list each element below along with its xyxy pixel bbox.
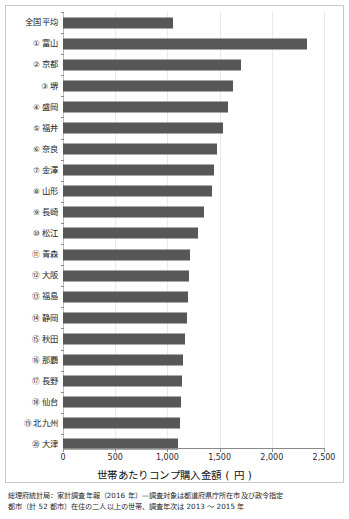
x-tick-label: 500 [108,453,123,462]
x-tick-label: 1,500 [208,453,231,462]
bar[interactable] [63,207,204,218]
bar-track [63,244,343,265]
rank-badge: ⑬ [32,293,40,301]
rank-badge: ④ [33,104,40,112]
bar[interactable] [63,312,187,323]
bar-track [63,350,343,371]
x-tick-mark [167,448,168,452]
bar-row: ⑬福島 [6,286,343,307]
bar-row: ⑭静岡 [6,307,343,328]
bar-label-秋田: ⑮秋田 [6,335,58,344]
category-name: 富山 [42,38,58,48]
bar-track [63,307,343,328]
bar[interactable] [63,165,214,176]
category-name: 大阪 [42,270,58,280]
bar-row: ⑲北九州 [6,413,343,434]
bar-row: ⑦金澤 [6,160,343,181]
bar[interactable] [63,144,217,155]
bar-track [63,181,343,202]
x-tick-label: 0 [60,453,65,462]
bar-track [63,328,343,349]
bar-track [63,265,343,286]
bar-row: ⑰長野 [6,371,343,392]
bar-track [63,223,343,244]
rank-badge: ⑤ [33,125,40,133]
bar[interactable] [63,270,189,281]
category-name: 京都 [42,59,58,69]
bar[interactable] [63,376,182,387]
rank-badge: ⑧ [33,188,40,196]
x-tick-mark [63,448,64,452]
bar[interactable] [63,249,190,260]
bar-label-京都: ②京都 [6,60,58,69]
footnote: 総理府統計局：家計調査年報（2016 年）—調査対象は都道府県庁所在市及び政令指… [8,490,344,512]
bar-row: ⑯那覇 [6,350,343,371]
bar-label-長崎: ⑨長崎 [6,208,58,217]
bar-label-堺: ③堺 [6,82,58,91]
bar[interactable] [63,397,181,408]
rank-badge: ⑪ [32,251,40,259]
x-tick-mark [272,448,273,452]
bar-label-金澤: ⑦金澤 [6,166,58,175]
bar[interactable] [63,333,185,344]
bar-track [63,33,343,54]
x-tick-mark [324,448,325,452]
bar[interactable] [63,17,173,28]
bar[interactable] [63,59,241,70]
category-name: 松江 [42,228,58,238]
bar-label-奈良: ⑥奈良 [6,145,58,154]
category-name: 堺 [50,81,58,91]
rank-badge: ⑩ [33,230,40,238]
bar-track [63,160,343,181]
bar-label-福井: ⑤福井 [6,124,58,133]
bar[interactable] [63,38,307,49]
bar-track [63,392,343,413]
chart-frame: 全国平均①富山②京都③堺④盛岡⑤福井⑥奈良⑦金澤⑧山形⑨長崎⑩松江⑪青森⑫大阪⑬… [5,5,344,483]
rank-badge: ⑨ [33,209,40,217]
x-tick-label: 1,000 [156,453,179,462]
category-name: 仙台 [42,397,58,407]
plot-area: 全国平均①富山②京都③堺④盛岡⑤福井⑥奈良⑦金澤⑧山形⑨長崎⑩松江⑪青森⑫大阪⑬… [6,6,343,482]
bar[interactable] [63,418,180,429]
bar[interactable] [63,123,223,134]
bar-label-全国平均: 全国平均 [6,18,58,26]
bar-row: ⑫大阪 [6,265,343,286]
x-tick-mark [115,448,116,452]
bar[interactable] [63,228,198,239]
bar-row: ⑱仙台 [6,392,343,413]
bar-label-那覇: ⑯那覇 [6,356,58,365]
bar-label-長野: ⑰長野 [6,377,58,386]
x-axis-line [63,448,324,449]
bar[interactable] [63,80,233,91]
rank-badge: ⑯ [32,357,40,365]
footnote-line-1: 総理府統計局：家計調査年報（2016 年）—調査対象は都道府県庁所在市及び政令指… [8,490,344,501]
rank-badge: ⑰ [32,378,40,386]
bar-row: ⑥奈良 [6,139,343,160]
bar-track [63,202,343,223]
category-name: 大津 [42,439,58,449]
category-name: 静岡 [42,313,58,323]
category-name: 北九州 [33,418,58,428]
bar-track [63,12,343,33]
bar-track [63,75,343,96]
bar[interactable] [63,291,188,302]
category-name: 青森 [42,249,58,259]
bar-row: ①富山 [6,33,343,54]
bar-label-大津: ⑳大津 [6,440,58,449]
rank-badge: ① [33,40,40,48]
bar-label-仙台: ⑱仙台 [6,398,58,407]
bar-label-北九州: ⑲北九州 [6,419,58,428]
bar-row: ⑪青森 [6,244,343,265]
category-name: 奈良 [42,144,58,154]
bar-track [63,54,343,75]
x-axis-title: 世帯あたりコンプ購入金額 ( 円 ) [6,467,343,482]
bar[interactable] [63,355,183,366]
category-name: 盛岡 [42,102,58,112]
rank-badge: ⑳ [32,441,40,449]
bar-track [63,286,343,307]
bar[interactable] [63,101,228,112]
bar[interactable] [63,186,212,197]
x-tick-label: 2,500 [313,453,336,462]
bar-row: ③堺 [6,75,343,96]
rank-badge: ⑲ [24,420,32,428]
